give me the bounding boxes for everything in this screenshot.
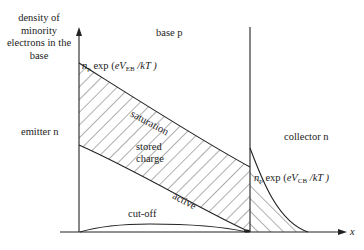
collector-boundary-formula: np exp (eVCB /kT )	[254, 172, 329, 187]
junction-dot	[244, 230, 250, 233]
cut-off-curve	[80, 224, 247, 232]
y-axis-label: density of minority electrons in the bas…	[2, 12, 76, 62]
stored-charge-label-line1: stored	[136, 141, 162, 153]
x-axis-arrow-icon	[338, 229, 347, 235]
stored-charge-label-line2: charge	[136, 153, 164, 165]
base-region-label: base p	[156, 27, 183, 39]
cut-off-label: cut-off	[128, 208, 156, 220]
y-axis-arrow-icon	[76, 27, 82, 36]
x-axis-label: x	[350, 226, 355, 238]
emitter-region-label: emitter n	[21, 126, 59, 138]
collector-region-label: collector n	[284, 131, 329, 143]
emitter-boundary-formula: np exp (eVEB /kT )	[82, 60, 157, 75]
stored-charge-region	[79, 63, 250, 232]
